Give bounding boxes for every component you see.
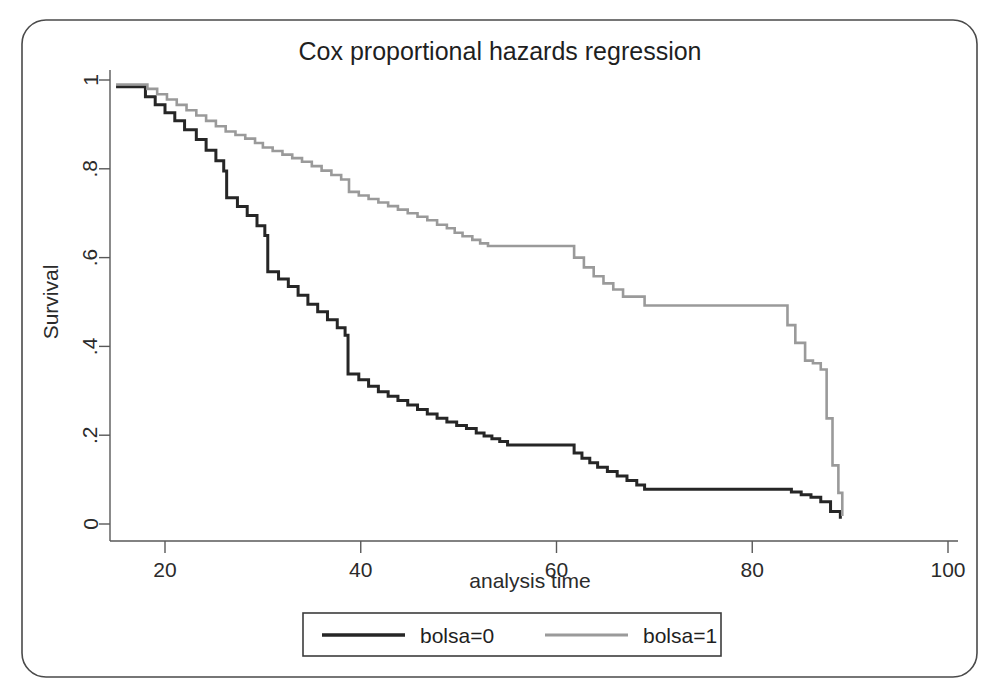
y-tick-label-.6: .6	[79, 249, 102, 267]
x-axis-title: analysis time	[469, 569, 590, 592]
legend-label-bolsa-1: bolsa=1	[643, 624, 717, 647]
y-tick-label-1: 1	[79, 74, 102, 86]
y-axis-title: Survival	[39, 265, 62, 340]
survival-curve-bolsa-1	[116, 84, 842, 516]
x-tick-label-100: 100	[930, 558, 965, 581]
x-tick-label-40: 40	[349, 558, 372, 581]
x-tick-label-20: 20	[153, 558, 176, 581]
y-tick-label-0: 0	[79, 518, 102, 530]
axes-group	[99, 70, 958, 553]
survival-plot: 0.2.4.6.8120406080100 Cox proportional h…	[0, 0, 1000, 698]
y-tick-label-.2: .2	[79, 426, 102, 444]
survival-curve-bolsa-0	[116, 87, 840, 519]
chart-title: Cox proportional hazards regression	[299, 37, 702, 65]
legend-box[interactable]: bolsa=0 bolsa=1	[303, 613, 721, 656]
legend-label-bolsa-0: bolsa=0	[420, 624, 494, 647]
curves-group	[116, 84, 842, 518]
y-tick-label-.8: .8	[79, 160, 102, 178]
y-tick-label-.4: .4	[79, 337, 102, 355]
x-tick-label-80: 80	[741, 558, 764, 581]
figure-container: 0.2.4.6.8120406080100 Cox proportional h…	[0, 0, 1000, 698]
